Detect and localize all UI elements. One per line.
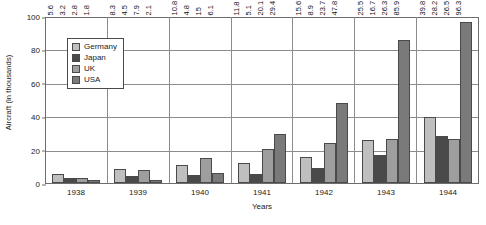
y-axis-tick-label: 100 <box>27 13 46 22</box>
y-axis-tick-label: 60 <box>31 79 46 88</box>
x-axis-tick-label: 1943 <box>355 188 417 197</box>
bar-value-label: 15 <box>195 7 203 17</box>
bar-value-label: 5.1 <box>245 5 253 17</box>
y-axis-title: Aircraft (in thousands) <box>2 0 16 185</box>
bar: 25.5 <box>362 140 374 183</box>
bar-value-label: 25.5 <box>357 0 365 17</box>
plot-area: 020406080100 5.63.22.81.88.34.57.92.110.… <box>45 17 479 184</box>
bar-value-label: 5.6 <box>47 5 55 17</box>
bar: 11.8 <box>238 163 250 183</box>
bar-value-label: 96.3 <box>455 0 463 17</box>
bar: 1.8 <box>88 180 100 183</box>
bar-value-label: 26.5 <box>443 0 451 17</box>
legend-swatch-icon <box>72 54 80 62</box>
bar-slot: 85.9 <box>398 17 410 183</box>
bar-value-label: 39.8 <box>419 0 427 17</box>
legend-item[interactable]: Japan <box>72 53 117 63</box>
x-axis-tick-label: 1939 <box>107 188 169 197</box>
legend-swatch-icon <box>72 65 80 73</box>
bar: 16.7 <box>374 155 386 183</box>
bar-value-label: 2.1 <box>145 5 153 17</box>
bar: 47.8 <box>336 103 348 183</box>
bar: 29.4 <box>274 134 286 183</box>
legend-item[interactable]: UK <box>72 64 117 74</box>
legend-swatch-icon <box>72 43 80 51</box>
bar-group: 10.84.8156.1 <box>169 17 231 183</box>
bar-value-label: 26.3 <box>381 0 389 17</box>
bar-value-label: 23.7 <box>319 0 327 17</box>
bar-slot: 6.1 <box>212 17 224 183</box>
bar-slot: 16.7 <box>374 17 386 183</box>
bar-group: 39.828.226.596.3 <box>416 17 478 183</box>
y-axis-tick-label: 20 <box>31 146 46 155</box>
legend-item[interactable]: Germany <box>72 42 117 52</box>
bar-slot: 39.8 <box>424 17 436 183</box>
y-axis-title-text: Aircraft (in thousands) <box>5 55 14 131</box>
bar-slot: 4.5 <box>126 17 138 183</box>
bar: 39.8 <box>424 117 436 183</box>
bar: 3.2 <box>64 178 76 183</box>
bar-slot: 26.5 <box>448 17 460 183</box>
bar-value-label: 47.8 <box>331 0 339 17</box>
bar-value-label: 3.2 <box>59 5 67 17</box>
bar-group: 11.85.120.129.4 <box>231 17 293 183</box>
bar-slot: 4.8 <box>188 17 200 183</box>
bar: 2.1 <box>150 180 162 184</box>
legend-label: UK <box>84 64 95 74</box>
bar-slot: 7.9 <box>138 17 150 183</box>
bar-value-label: 29.4 <box>269 0 277 17</box>
bar-value-label: 2.8 <box>71 5 79 17</box>
bar-slot: 5.1 <box>250 17 262 183</box>
legend-label: Japan <box>84 53 106 63</box>
bar-value-label: 15.6 <box>295 0 303 17</box>
bar-value-label: 1.8 <box>83 5 91 17</box>
bar-slot: 5.6 <box>52 17 64 183</box>
bar-value-label: 6.1 <box>207 5 215 17</box>
y-axis-tick-label: 80 <box>31 46 46 55</box>
bar-value-label: 85.9 <box>393 0 401 17</box>
x-axis-title: Years <box>45 202 479 211</box>
bar: 5.6 <box>52 174 64 183</box>
legend: GermanyJapanUKUSA <box>67 38 124 89</box>
bar: 8.9 <box>312 168 324 183</box>
bar-group: 25.516.726.385.9 <box>354 17 416 183</box>
legend-label: Germany <box>84 42 117 52</box>
legend-swatch-icon <box>72 76 80 84</box>
bar-group: 15.68.923.747.8 <box>292 17 354 183</box>
bar-slot: 23.7 <box>324 17 336 183</box>
bar: 85.9 <box>398 40 410 183</box>
bar: 26.5 <box>448 139 460 183</box>
y-axis-tick-label: 40 <box>31 113 46 122</box>
bar-value-label: 7.9 <box>133 5 141 17</box>
bar: 96.3 <box>460 22 472 183</box>
bar-slot: 25.5 <box>362 17 374 183</box>
bar: 4.5 <box>126 176 138 184</box>
x-axis-tick-label: 1940 <box>169 188 231 197</box>
x-axis-tick-labels: 1938193919401941194219431944 <box>45 188 479 197</box>
bar-slot: 47.8 <box>336 17 348 183</box>
bar-value-label: 16.7 <box>369 0 377 17</box>
bar-value-label: 4.5 <box>121 5 129 17</box>
bar-value-label: 20.1 <box>257 0 265 17</box>
bar-slot: 15 <box>200 17 212 183</box>
bar-slot: 11.8 <box>238 17 250 183</box>
bar-value-label: 11.8 <box>233 1 241 17</box>
bar-slot: 29.4 <box>274 17 286 183</box>
bar: 15 <box>200 158 212 183</box>
bar: 10.8 <box>176 165 188 183</box>
bar-slot: 8.9 <box>312 17 324 183</box>
legend-label: USA <box>84 75 100 85</box>
bar-value-label: 10.8 <box>171 0 179 17</box>
bar: 23.7 <box>324 143 336 183</box>
bar-slot: 10.8 <box>176 17 188 183</box>
bar: 8.3 <box>114 169 126 183</box>
bar-value-label: 28.2 <box>431 0 439 17</box>
bar-value-label: 8.3 <box>109 5 117 17</box>
bar: 28.2 <box>436 136 448 183</box>
x-axis-tick-label: 1941 <box>231 188 293 197</box>
legend-item[interactable]: USA <box>72 75 117 85</box>
bar-slot: 96.3 <box>460 17 472 183</box>
bar-slot: 28.2 <box>436 17 448 183</box>
x-axis-tick-label: 1938 <box>45 188 107 197</box>
bar-chart: Aircraft (in thousands) 020406080100 5.6… <box>0 0 486 225</box>
